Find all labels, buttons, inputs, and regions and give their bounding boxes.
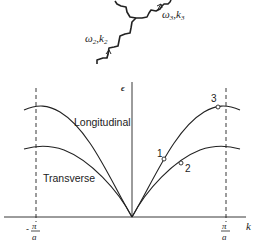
transverse-branch-right <box>132 146 240 217</box>
left-tick-denominator: a <box>32 232 37 242</box>
right-tick-denominator: a <box>222 232 227 242</box>
longitudinal-branch-right <box>132 106 240 217</box>
incoming-omega-label: ω2,k2 <box>85 32 108 46</box>
point-2-label: 2 <box>185 163 191 174</box>
right-tick-numerator: π <box>222 221 227 231</box>
left-tick-sign: - <box>26 224 29 234</box>
left-tick-numerator: π <box>32 221 37 231</box>
point-3 <box>216 105 220 109</box>
point-2 <box>179 161 183 165</box>
dispersion-diagram: ω2,k2 ω3,k3 1 2 3 Longitudinal Transvers… <box>0 0 260 252</box>
y-axis-label: ϵ <box>121 83 125 93</box>
point-1-label: 1 <box>157 148 163 159</box>
phonon-interaction-diagram <box>97 0 171 64</box>
outgoing-omega-label: ω3,k3 <box>162 8 185 22</box>
x-axis-label: k <box>246 220 252 232</box>
point-3-label: 3 <box>211 93 217 104</box>
longitudinal-label: Longitudinal <box>74 116 131 128</box>
upper-phonon-wave <box>115 1 136 18</box>
point-1 <box>162 157 166 161</box>
transverse-label: Transverse <box>43 172 95 184</box>
